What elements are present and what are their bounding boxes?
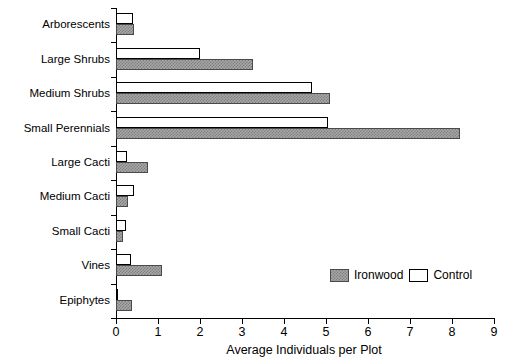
x-axis-tick-label: 6 (353, 326, 383, 339)
legend-label-control: Control (433, 268, 472, 282)
bar-control (116, 185, 134, 196)
x-axis-tick-label: 9 (479, 326, 509, 339)
bar-control (116, 254, 131, 265)
x-axis-tick-label: 3 (227, 326, 257, 339)
y-axis-tick (111, 146, 117, 147)
y-axis-tick (111, 284, 117, 285)
x-axis-tick (158, 318, 159, 324)
x-axis-tick (326, 318, 327, 324)
x-axis-tick-label: 2 (185, 326, 215, 339)
x-axis-title: Average Individuals per Plot (0, 343, 512, 357)
bar-ironwood (116, 231, 123, 242)
y-axis-category-label: Arborescents (0, 19, 110, 31)
x-axis-tick (368, 318, 369, 324)
bar-chart: ArborescentsLarge ShrubsMedium ShrubsSma… (0, 0, 512, 363)
y-axis-tick (111, 215, 117, 216)
bar-control (116, 82, 312, 93)
y-axis-tick (111, 8, 117, 9)
bar-ironwood (116, 93, 330, 104)
y-axis-tick (111, 249, 117, 250)
y-axis-category-label: Medium Shrubs (0, 88, 110, 100)
x-axis-tick-label: 4 (269, 326, 299, 339)
bar-ironwood (116, 59, 253, 70)
x-axis-tick-label: 8 (437, 326, 467, 339)
bar-ironwood (116, 196, 128, 207)
legend-swatch-ironwood-icon (330, 269, 349, 282)
x-axis-tick (452, 318, 453, 324)
bar-ironwood (116, 128, 460, 139)
legend-item-ironwood: Ironwood (330, 268, 403, 282)
chart-legend: Ironwood Control (330, 268, 472, 282)
x-axis-tick-label: 7 (395, 326, 425, 339)
bar-control (116, 13, 133, 24)
y-axis-category-label: Medium Cacti (0, 191, 110, 203)
bar-control (116, 220, 126, 231)
legend-label-ironwood: Ironwood (354, 268, 403, 282)
bar-ironwood (116, 162, 148, 173)
y-axis-category-label: Epiphytes (0, 295, 110, 307)
y-axis-category-label: Vines (0, 260, 110, 272)
bar-control (116, 289, 118, 300)
y-axis-tick (111, 180, 117, 181)
x-axis-tick (494, 318, 495, 324)
bar-ironwood (116, 265, 162, 276)
x-axis-tick-label: 5 (311, 326, 341, 339)
x-axis-tick (116, 318, 117, 324)
legend-swatch-control-icon (409, 269, 428, 282)
y-axis-category-label: Large Cacti (0, 157, 110, 169)
legend-item-control: Control (409, 268, 472, 282)
y-axis-category-label: Small Cacti (0, 226, 110, 238)
x-axis-tick-label: 1 (143, 326, 173, 339)
x-axis-tick-label: 0 (101, 326, 131, 339)
bar-ironwood (116, 24, 134, 35)
x-axis-tick (284, 318, 285, 324)
x-axis-tick (200, 318, 201, 324)
x-axis-line (116, 318, 495, 319)
y-axis-category-label: Small Perennials (0, 123, 110, 135)
bar-control (116, 117, 328, 128)
bar-ironwood (116, 300, 132, 311)
x-axis-tick (242, 318, 243, 324)
x-axis-tick (410, 318, 411, 324)
y-axis-tick (111, 42, 117, 43)
y-axis-tick (111, 77, 117, 78)
bar-control (116, 151, 127, 162)
y-axis-tick (111, 111, 117, 112)
bar-control (116, 48, 200, 59)
y-axis-category-label: Large Shrubs (0, 54, 110, 66)
